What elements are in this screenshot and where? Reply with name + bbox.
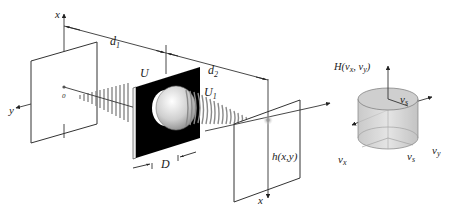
x-axis-bottom-label: x <box>257 194 263 206</box>
nu-x-label: νx <box>338 153 347 167</box>
transfer-function-plot <box>352 66 432 149</box>
aperture-label-U: U <box>140 66 150 80</box>
output-plane <box>205 79 330 202</box>
y-axis-left-label: y <box>8 104 14 116</box>
nu-s-axis-label: νs <box>407 150 415 164</box>
input-plane <box>16 14 97 143</box>
optical-system-diagram: x y 0 d1 d2 U U1 D h(x,y) x H(νx, νy) νs… <box>0 0 453 213</box>
x-axis-top-label: x <box>54 8 60 20</box>
d1-label: d1 <box>110 34 120 50</box>
lens-label-U1: U1 <box>204 85 217 101</box>
origin-label: 0 <box>62 92 66 100</box>
nu-y-label: νy <box>432 144 441 158</box>
diameter-label-D: D <box>160 157 170 171</box>
transfer-function-label: H(νx, νy) <box>333 61 371 74</box>
d2-label: d2 <box>208 63 218 79</box>
source-point <box>62 85 65 88</box>
y-axis-left-arrow <box>16 104 31 108</box>
psf-label: h(x,y) <box>272 150 298 163</box>
y-axis-right-arrow <box>318 103 330 106</box>
